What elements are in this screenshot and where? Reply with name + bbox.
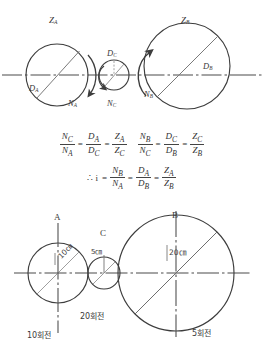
fraction-denominator: NC [138,145,153,158]
equation-fraction: DADB [136,165,151,192]
top-gear-train-graphic [0,0,264,128]
label-da: DA [29,84,38,93]
pulley-circle-c [88,255,120,289]
fraction-numerator: ZA [162,165,176,179]
equation-operator: = [100,173,109,183]
equation-fraction: NCNA [60,131,75,158]
equation-block: NCNA=DADC=ZAZCNBNC=DCDB=ZCZB ∴ i =NBNA=D… [0,131,264,191]
equation-operator: = [152,173,161,183]
fraction-denominator: ZB [162,178,176,191]
label-nb: NB [144,90,153,99]
pulley-size-c: 5㎝ [91,249,102,256]
equation-line-1: NCNA=DADC=ZAZCNBNC=DCDB=ZCZB [0,131,264,158]
fraction-denominator: ZC [112,145,126,158]
pulley-circle-b [118,211,234,337]
equation-operator: = [102,139,111,149]
equation-fraction: DCDB [164,131,180,158]
gear-circle-b [144,23,230,109]
fraction-numerator: ZC [190,131,204,145]
fraction-numerator: NC [60,131,75,145]
fraction-denominator: DB [136,178,151,191]
fraction-numerator: NB [138,131,153,145]
pulley-title-a: A [54,213,61,222]
label-na: NA [68,99,77,108]
equation-prefix: ∴ i [87,173,100,183]
equation-operator: = [180,139,189,149]
equation-fraction: NBNC [138,131,153,158]
fraction-numerator: DC [164,131,180,145]
equation-line-2: ∴ i =NBNA=DADB=ZAZB [0,165,264,192]
equation-fraction: ZAZB [162,165,176,192]
pulley-rotations-b: 5회전 [192,330,211,338]
pulley-title-c: C [100,229,106,238]
figure-canvas: ZA ZB DA DC DB NA NC NB NCNA=DADC=ZAZCNB… [0,0,264,356]
label-za: ZA [49,16,57,26]
equation-fraction: ZAZC [112,131,126,158]
fraction-denominator: ZB [190,145,204,158]
pulley-size-b: 20㎝ [169,249,186,257]
equation-operator: = [76,139,85,149]
fraction-numerator: ZA [112,131,126,145]
fraction-numerator: DA [136,165,151,179]
label-db: DB [203,62,212,71]
equation-operator: = [126,173,135,183]
fraction-numerator: NB [110,165,125,179]
equation-fraction: DADC [86,131,102,158]
fraction-denominator: DB [164,145,180,158]
label-zb: ZB [181,16,189,26]
pulley-rotations-c: 20회전 [80,313,104,321]
pulley-circle-a [28,223,88,333]
fraction-denominator: DC [86,145,102,158]
label-dc: DC [107,49,117,58]
fraction-denominator: NA [110,178,125,191]
label-nc: NC [107,99,116,108]
fraction-denominator: NA [60,145,75,158]
pulley-title-b: B [172,211,178,220]
equation-fraction: ZCZB [190,131,204,158]
equation-operator: = [154,139,163,149]
pulley-rotations-a: 10회전 [27,332,51,340]
equation-fraction: NBNA [110,165,125,192]
fraction-numerator: DA [86,131,102,145]
